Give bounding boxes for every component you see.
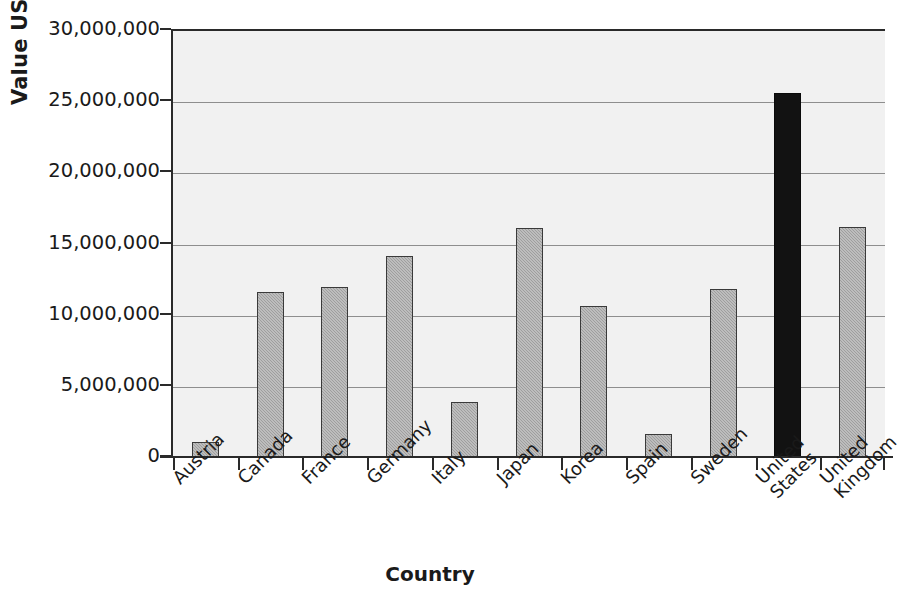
x-tick-mark — [432, 458, 434, 470]
y-tick-mark — [160, 28, 171, 30]
bar — [580, 306, 607, 458]
y-axis-tick-labels: 30,000,00025,000,00020,000,00015,000,000… — [10, 0, 160, 594]
y-tick-label: 25,000,000 — [10, 90, 160, 110]
y-tick-label: 15,000,000 — [10, 233, 160, 253]
x-tick-mark — [497, 458, 499, 470]
bar — [516, 228, 543, 458]
x-tick-mark — [561, 458, 563, 470]
y-tick-label: 5,000,000 — [10, 375, 160, 395]
plot-area — [171, 29, 885, 458]
bar — [321, 287, 348, 459]
y-tick-mark — [160, 99, 171, 101]
x-tick-mark — [691, 458, 693, 470]
y-tick-mark — [160, 384, 171, 386]
y-tick-mark — [160, 170, 171, 172]
x-tick-mark — [302, 458, 304, 470]
x-tick-mark — [367, 458, 369, 470]
x-tick-mark — [173, 458, 175, 470]
x-axis-title: Country — [330, 562, 530, 586]
bar — [839, 227, 866, 458]
y-tick-mark — [160, 455, 171, 457]
y-tick-mark — [160, 313, 171, 315]
y-tick-label: 30,000,000 — [10, 19, 160, 39]
y-tick-label: 0 — [10, 446, 160, 466]
bar — [774, 93, 801, 458]
y-tick-mark — [160, 242, 171, 244]
y-tick-label: 10,000,000 — [10, 304, 160, 324]
bar-chart: Value US$ '000 30,000,00025,000,00020,00… — [0, 0, 898, 594]
x-tick-mark — [756, 458, 758, 470]
x-tick-mark — [238, 458, 240, 470]
y-tick-label: 20,000,000 — [10, 161, 160, 181]
x-tick-mark — [626, 458, 628, 470]
x-tick-mark — [883, 458, 885, 470]
x-tick-mark — [820, 458, 822, 470]
